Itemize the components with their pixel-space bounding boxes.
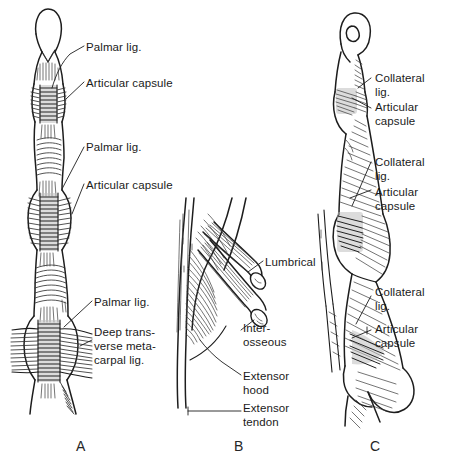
label-collateral-lig-pip: Collateral lig. [375, 155, 425, 183]
panel-a-artwork [11, 9, 92, 414]
label-articular-capsule-dip-a: Articular capsule [86, 76, 173, 90]
label-palmar-lig-proximal: Palmar lig. [94, 295, 149, 309]
label-articular-capsule-pip-c: Articular capsule [375, 185, 418, 213]
label-interosseous: Inter- osseous [243, 321, 287, 349]
label-collateral-lig-dip: Collateral lig. [375, 71, 425, 99]
label-collateral-lig-mcp: Collateral lig. [375, 285, 425, 313]
label-palmar-lig-distal: Palmar lig. [86, 40, 141, 54]
label-lumbrical: Lumbrical [265, 255, 316, 269]
anatomy-figure: .o { fill:none; stroke:#1d1d1d; stroke-w… [0, 0, 449, 466]
figure-artwork: .o { fill:none; stroke:#1d1d1d; stroke-w… [0, 0, 449, 466]
label-extensor-tendon: Extensor tendon [243, 401, 289, 429]
label-articular-capsule-mcp: Articular capsule [375, 322, 418, 350]
label-extensor-hood: Extensor hood [243, 369, 289, 397]
label-articular-capsule-dip-c: Articular capsule [375, 100, 418, 128]
panel-letter-a: A [76, 438, 85, 454]
label-deep-transverse-metacarpal-lig: Deep trans- verse meta- carpal lig. [94, 325, 156, 367]
panel-letter-b: B [234, 438, 243, 454]
panel-letter-c: C [370, 438, 380, 454]
label-articular-capsule-pip-a: Articular capsule [86, 178, 173, 192]
label-palmar-lig-middle: Palmar lig. [86, 140, 141, 154]
